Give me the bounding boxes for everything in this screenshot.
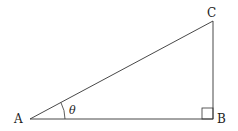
vertex-label-c: C — [207, 6, 216, 20]
angle-label-theta: θ — [69, 104, 76, 117]
triangle-diagram: A B C θ — [0, 0, 238, 131]
right-angle-marker-icon — [202, 108, 213, 119]
angle-arc-icon — [61, 103, 65, 120]
vertex-label-a: A — [13, 112, 23, 126]
triangle-svg: A B C θ — [0, 0, 238, 131]
side-ac-hypotenuse — [30, 21, 213, 119]
vertex-label-b: B — [217, 112, 226, 126]
